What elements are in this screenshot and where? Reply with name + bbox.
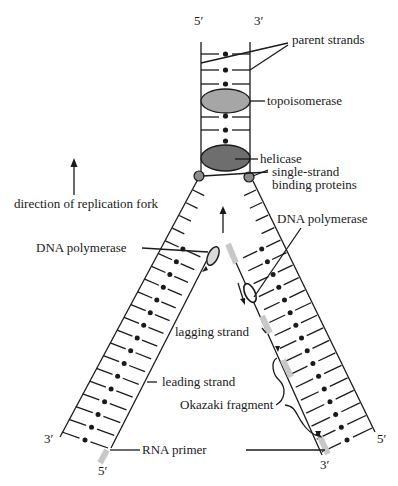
replication-fork-diagram: 5′ 3′ parent strands topoisomerase helic…: [0, 0, 398, 486]
label-dna-polymerase-left: DNA polymerase: [36, 241, 127, 255]
label-right-5prime: 5′: [377, 432, 386, 446]
label-top-5prime: 5′: [194, 14, 203, 28]
label-top-3prime: 3′: [254, 14, 263, 28]
helicase-enzyme: [201, 145, 250, 171]
topoisomerase-enzyme: [201, 89, 250, 113]
rna-primer-lagging-3: [283, 360, 291, 377]
rna-primer-lagging-1: [228, 244, 236, 263]
label-lagging-strand: lagging strand: [175, 325, 249, 339]
leading-strand-arm: [60, 181, 222, 463]
label-dna-polymerase-right: DNA polymerase: [277, 212, 368, 226]
label-okazaki-fragment: Okazaki fragment: [180, 398, 273, 412]
label-rna-primer: RNA primer: [142, 443, 207, 457]
rna-primer-left: [100, 450, 107, 463]
fork-center-arrow: [220, 206, 227, 233]
direction-arrow: [71, 158, 78, 195]
label-left-3prime: 3′: [44, 432, 53, 446]
label-ssb-line2: binding proteins: [272, 178, 357, 192]
label-right-3prime: 3′: [320, 458, 329, 472]
rna-primer-lagging-4: [320, 437, 328, 454]
label-direction-of-fork: direction of replication fork: [14, 197, 158, 211]
ssb-protein-left: [194, 171, 204, 181]
label-left-5prime: 5′: [98, 464, 107, 478]
dna-polymerase-leading: [204, 245, 222, 267]
label-topoisomerase: topoisomerase: [267, 94, 342, 108]
label-leading-strand: leading strand: [162, 375, 235, 389]
label-parent-strands: parent strands: [292, 33, 365, 47]
